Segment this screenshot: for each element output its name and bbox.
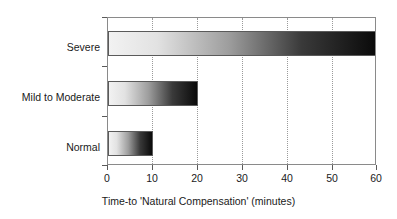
x-tick-30 xyxy=(242,165,243,170)
category-label-mild-to-moderate: Mild to Moderate xyxy=(0,91,100,103)
x-tick-60 xyxy=(376,165,377,170)
bar-normal xyxy=(108,131,153,156)
y-tick-0 xyxy=(102,17,107,18)
x-tick-label-60: 60 xyxy=(356,172,396,185)
category-axis-labels: Severe Mild to Moderate Normal xyxy=(0,17,100,165)
category-label-severe: Severe xyxy=(0,41,100,53)
bar-mild-to-moderate xyxy=(108,81,198,106)
x-tick-label-20: 20 xyxy=(177,172,217,185)
x-tick-20 xyxy=(197,165,198,170)
x-tick-label-10: 10 xyxy=(132,172,172,185)
y-tick-1 xyxy=(102,66,107,67)
x-tick-label-30: 30 xyxy=(222,172,262,185)
x-tick-10 xyxy=(152,165,153,170)
y-tick-2 xyxy=(102,116,107,117)
x-tick-0 xyxy=(107,165,108,170)
plot-area xyxy=(107,17,376,165)
bar-chart: Severe Mild to Moderate Normal 0 10 20 3… xyxy=(0,0,397,219)
x-tick-label-40: 40 xyxy=(267,172,307,185)
x-tick-label-50: 50 xyxy=(312,172,352,185)
x-axis-title: Time-to 'Natural Compensation' (minutes) xyxy=(0,194,397,208)
category-label-normal: Normal xyxy=(0,141,100,153)
x-tick-40 xyxy=(287,165,288,170)
x-tick-label-0: 0 xyxy=(87,172,127,185)
x-tick-50 xyxy=(332,165,333,170)
bar-severe xyxy=(108,31,376,56)
